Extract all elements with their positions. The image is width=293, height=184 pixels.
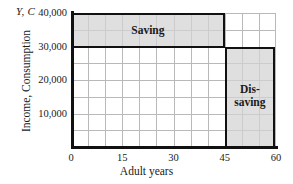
x-axis-title: Adult years — [0, 165, 293, 177]
x-tick-label-0: 0 — [68, 152, 73, 163]
region-saving: Saving — [71, 13, 225, 48]
x-tick-label-45: 45 — [220, 152, 231, 163]
x-tick-label-15: 15 — [117, 152, 128, 163]
y-tick-label-10000: 10,000 — [38, 109, 67, 120]
y-tick-label-40000: 40,000 — [38, 8, 67, 19]
plot-area: Saving Dis- saving — [71, 13, 276, 147]
y-axis-tick-labels: 40,000 30,000 20,000 10,000 — [0, 0, 67, 184]
region-dissaving-label-line1: Dis- — [227, 83, 273, 96]
chart-figure: Y, C Income, Consumption 40,000 30,000 2… — [0, 0, 293, 184]
region-dissaving: Dis- saving — [225, 47, 275, 148]
region-saving-label: Saving — [73, 24, 223, 37]
region-dissaving-label-line2: saving — [227, 96, 273, 109]
x-tick-label-60: 60 — [271, 152, 282, 163]
x-axis-line — [71, 146, 278, 149]
x-tick-label-30: 30 — [168, 152, 179, 163]
y-axis-line — [71, 11, 74, 149]
y-tick-label-30000: 30,000 — [38, 42, 67, 53]
y-tick-label-20000: 20,000 — [38, 75, 67, 86]
